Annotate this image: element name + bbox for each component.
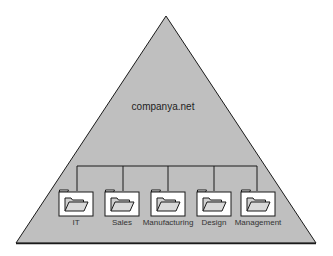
- folder-open-icon: [196, 189, 232, 217]
- ou-management[interactable]: Management: [240, 189, 276, 221]
- folder-open-icon: [104, 189, 140, 217]
- ou-design[interactable]: Design: [196, 189, 232, 221]
- folder-open-icon: [58, 189, 94, 217]
- ou-it[interactable]: IT: [58, 189, 94, 221]
- domain-name-label: companya.net: [132, 101, 195, 112]
- folder-open-icon: [150, 189, 186, 217]
- ou-label: Sales: [112, 218, 132, 227]
- ou-sales[interactable]: Sales: [104, 189, 140, 221]
- ou-label: Design: [202, 218, 227, 227]
- ou-label: Management: [235, 218, 282, 227]
- ou-manufacturing[interactable]: Manufacturing: [150, 189, 186, 221]
- folder-open-icon: [240, 189, 276, 217]
- ou-label: Manufacturing: [143, 218, 194, 227]
- ou-label: IT: [72, 218, 79, 227]
